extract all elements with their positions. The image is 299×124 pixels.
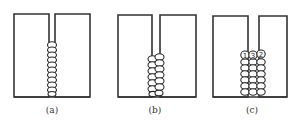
left-plate-b <box>118 15 152 97</box>
left-plate-a <box>14 14 49 97</box>
panel-b: (b) <box>118 15 196 115</box>
pass-label-1: 1 <box>243 52 247 60</box>
right-plate-a <box>55 14 90 97</box>
weld-beads-c: 1 3 2 <box>241 50 265 95</box>
pass-label-3: 3 <box>251 52 255 60</box>
caption-b: (b) <box>149 105 162 115</box>
panel-c: 1 3 2 (c) <box>213 16 287 115</box>
caption-a: (a) <box>46 105 58 115</box>
weld-groove-diagram: (a) (b) <box>0 0 299 124</box>
weld-beads-b <box>148 54 164 97</box>
panel-a: (a) <box>14 14 90 115</box>
caption-c: (c) <box>246 105 258 115</box>
right-plate-b <box>160 15 196 97</box>
pass-label-2: 2 <box>259 51 263 59</box>
weld-beads-a <box>48 42 57 97</box>
